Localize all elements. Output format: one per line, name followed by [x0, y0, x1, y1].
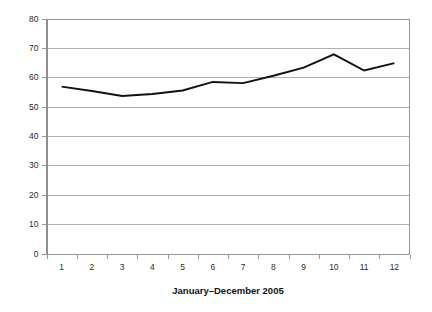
x-tick-label: 8 — [271, 262, 276, 272]
line-chart: 01020304050607080 123456789101112 Januar… — [0, 0, 432, 312]
y-tick-label: 50 — [29, 102, 39, 112]
y-tick-label: 10 — [29, 219, 39, 229]
y-tick-label: 30 — [29, 160, 39, 170]
y-tick-label: 80 — [29, 14, 39, 24]
y-tick-label: 70 — [29, 43, 39, 53]
x-tick-label: 7 — [241, 262, 246, 272]
x-tick-label: 11 — [360, 262, 369, 272]
x-tick-label: 6 — [211, 262, 216, 272]
x-tick-label: 1 — [59, 262, 64, 272]
x-axis-title: January–December 2005 — [172, 285, 284, 296]
x-tick-label: 2 — [90, 262, 95, 272]
x-tick-label: 10 — [329, 262, 339, 272]
y-tick-label: 20 — [29, 190, 39, 200]
chart-canvas: 01020304050607080 123456789101112 Januar… — [0, 0, 432, 312]
y-tick-label: 0 — [34, 249, 39, 259]
x-tick-label: 5 — [180, 262, 185, 272]
y-tick-label: 60 — [29, 72, 39, 82]
x-tick-label: 12 — [390, 262, 400, 272]
y-axis-tick-labels: 01020304050607080 — [29, 14, 39, 259]
y-tick-label: 40 — [29, 131, 39, 141]
x-tick-label: 9 — [301, 262, 306, 272]
x-tick-label: 4 — [150, 262, 155, 272]
x-tick-label: 3 — [120, 262, 125, 272]
